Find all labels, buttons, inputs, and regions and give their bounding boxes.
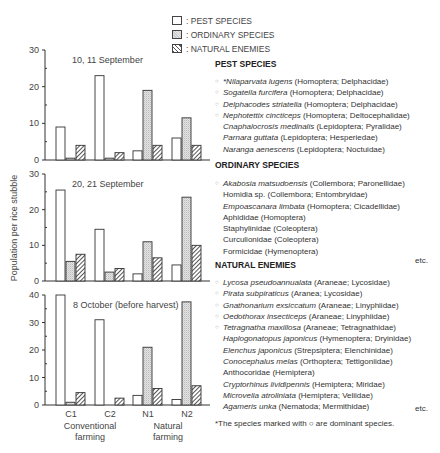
bar-N2-0 [172, 400, 181, 406]
species-taxon: (Aranea; Lycosidae) [289, 288, 363, 299]
bar-C2-2 [115, 398, 124, 405]
species-name: Cnaphalocrosis medinalis [223, 121, 314, 132]
species-item: Elenchus japonicus (Strepsiptera; Elench… [215, 345, 437, 356]
species-taxon: (Collembora; Paronellidae) [308, 178, 405, 189]
species-taxon: (Lepidoptera; Hesperiedae) [278, 132, 378, 143]
y-tick-label: 10 [29, 118, 39, 128]
bar-C1-1 [66, 402, 75, 405]
dominant-circle-icon: ○ [215, 76, 223, 87]
dominant-circle-icon: ○ [215, 288, 223, 299]
species-item: Microvelia atroliniata (Hemiptera; Velii… [215, 390, 437, 401]
species-name: Conocephalus melas [223, 356, 298, 367]
panel-title: 8 October (before harvest) [73, 300, 179, 310]
species-item: Haplogonatopus japonicus (Hymenoptera; D… [215, 333, 437, 344]
species-taxon: (Hymenoptera) [263, 246, 319, 257]
bar-C1-0 [56, 295, 65, 405]
species-item: Agameris unka (Nematoda; Mermithidae) [215, 401, 437, 412]
species-item: Curculionidae (Coleoptera) [215, 234, 437, 245]
y-tick-label: 30 [29, 318, 39, 328]
species-taxon: (Strepsiptera; Elenchinidae) [292, 345, 393, 356]
species-name: Aphididae [223, 212, 259, 223]
y-tick-label: 10 [29, 373, 39, 383]
y-tick-label: 0 [34, 400, 39, 410]
bar-C1-2 [76, 254, 85, 281]
species-taxon: (Araneae; Tetragnathidae) [301, 322, 396, 333]
species-name: Homidia sp. [223, 189, 265, 200]
species-taxon: (Homoptera; Deltocephalidae) [301, 110, 410, 121]
legend-item-natural: : NATURAL ENEMIES [172, 42, 275, 55]
species-taxon: (Collembora; Entombryidae) [265, 189, 367, 200]
species-item: ○Oedothorax insecticeps (Araneae; Linyph… [215, 311, 437, 322]
bar-C1-2 [76, 393, 85, 405]
dominant-circle-icon: ○ [215, 300, 223, 311]
species-name: Cryptorhinus lividipennis [223, 379, 310, 390]
species-taxon: (Homoptera; Delphacidae) [302, 99, 398, 110]
species-item: Naranga aenescens (Lepidoptera; Noctuida… [215, 144, 437, 155]
dominant-circle-icon: ○ [215, 87, 223, 98]
species-taxon: (Lepidoptera; Noctuidae) [295, 144, 385, 155]
bar-C2-2 [115, 269, 124, 281]
panel-title: 10, 11 September [72, 55, 143, 65]
species-item: ○Lycosa pseudoannualata (Araneae; Lycosi… [215, 277, 437, 288]
group-label: Natural [153, 421, 182, 431]
x-category-label: C2 [104, 409, 116, 419]
bar-N2-0 [172, 138, 181, 160]
species-item: ○Tetragnatha maxillosa (Araneae; Tetragn… [215, 322, 437, 333]
bar-C1-1 [66, 261, 75, 281]
bar-N2-1 [182, 197, 191, 281]
y-tick-label: 30 [29, 45, 39, 55]
ordinary-species-title: ORDINARY SPECIES [215, 160, 299, 170]
species-item: Anthocoridae (Hemiptera) [215, 367, 437, 378]
species-name: *Nilaparvata lugens [223, 76, 292, 87]
species-taxon: (Homoptera) [259, 212, 306, 223]
species-item: Cryptorhinus lividipennis (Hemiptera; Mi… [215, 379, 437, 390]
species-taxon: (Araneae; Linyphiidae) [316, 300, 399, 311]
bar-C1-0 [56, 127, 65, 160]
species-taxon: (Coleoptera) [272, 234, 319, 245]
species-item: Aphididae (Homoptera) [215, 212, 437, 223]
species-item: ○Akabosia matsudoensis (Collembora; Paro… [215, 178, 437, 189]
species-name: Delphacodes striatella [223, 99, 302, 110]
dominant-circle-icon: ○ [215, 277, 223, 288]
species-taxon: (Orthoptera; Tettigoniidae) [298, 356, 393, 367]
dominant-circle-icon: ○ [215, 99, 223, 110]
species-taxon: (Homoptera; Cicadellidae) [305, 201, 400, 212]
x-category-label: C1 [65, 409, 77, 419]
legend-item-ordinary: : ORDINARY SPECIES [172, 28, 275, 41]
bar-N2-0 [172, 265, 181, 281]
species-name: Pirata subpiraticus [223, 288, 289, 299]
species-item: ○Nephotettix cincticeps (Homoptera; Delt… [215, 110, 437, 121]
bar-N2-2 [192, 145, 201, 160]
panel-title: 20, 21 September [72, 179, 144, 189]
species-item: ○Sogatella furcifera (Homoptera; Delphac… [215, 87, 437, 98]
y-tick-label: 0 [34, 276, 39, 286]
bar-C2-2 [115, 153, 124, 160]
y-axis-label: Population per rice stubble [9, 175, 19, 282]
pest-species-list: ○*Nilaparvata lugens (Homoptera; Delphac… [215, 76, 437, 155]
species-name: Naranga aenescens [223, 144, 295, 155]
group-label: farming [153, 432, 183, 442]
species-taxon: (Hemiptera) [270, 367, 314, 378]
species-taxon: (Homoptera; Delphacidae) [287, 87, 383, 98]
bar-C2-0 [95, 320, 104, 405]
species-taxon: (Hemiptera; Miridae) [310, 379, 385, 390]
y-tick-label: 0 [34, 155, 39, 165]
species-item: Formicidae (Hymenoptera) [215, 246, 437, 257]
species-item: Homidia sp. (Collembora; Entombryidae) [215, 189, 437, 200]
bar-N2-1 [182, 302, 191, 405]
dominant-circle-icon: ○ [215, 178, 223, 189]
pest-species-title: PEST SPECIES [215, 59, 276, 69]
bar-C2-1 [105, 272, 114, 281]
bar-C2-0 [95, 76, 104, 160]
species-taxon: (Araneae; Linyphiidae) [307, 311, 390, 322]
species-item: Parnara guttata (Lepidoptera; Hesperieda… [215, 132, 437, 143]
species-item: Cnaphalocrosis medinalis (Lepidoptera; P… [215, 121, 437, 132]
footnote: *The species marked with ○ are dominant … [215, 419, 394, 428]
bar-C1-0 [56, 190, 65, 281]
species-name: Oedothorax insecticeps [223, 311, 307, 322]
species-item: Conocephalus melas (Orthoptera; Tettigon… [215, 356, 437, 367]
bar-N1-1 [143, 242, 152, 281]
species-item: Staphylinidae (Coleoptera) [215, 223, 437, 234]
species-taxon: (Coleoptera) [271, 223, 318, 234]
species-taxon: (Hemiptera; Veliidae) [296, 390, 373, 401]
